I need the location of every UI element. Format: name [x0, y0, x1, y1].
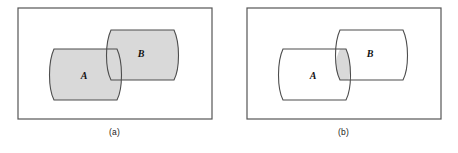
set-label-b: B: [137, 48, 145, 59]
panel-b-caption: (b): [229, 126, 458, 138]
panel-a: A B (a): [0, 0, 229, 153]
panel-b-venn-svg: A B: [229, 0, 458, 126]
panel-a-caption: (a): [0, 126, 229, 138]
set-label-a: A: [80, 70, 88, 81]
panel-a-venn-svg: A B: [0, 0, 229, 126]
venn-diagram-figure: A B (a) A B (b): [0, 0, 458, 153]
set-label-b: B: [366, 48, 374, 59]
panel-b: A B (b): [229, 0, 458, 153]
set-label-a: A: [309, 70, 317, 81]
